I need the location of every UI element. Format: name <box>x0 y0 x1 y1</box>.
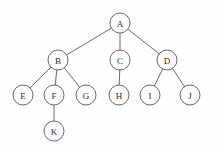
tree-node-k[interactable]: K <box>44 121 64 141</box>
tree-node-e[interactable]: E <box>13 85 33 105</box>
node-label-e: E <box>20 91 26 101</box>
node-label-i: I <box>149 91 152 101</box>
tree-edge-b-f <box>55 70 57 85</box>
tree-node-j[interactable]: J <box>180 85 200 105</box>
tree-node-g[interactable]: G <box>76 85 96 105</box>
tree-node-c[interactable]: C <box>110 50 130 70</box>
node-label-c: C <box>117 56 123 66</box>
tree-node-f[interactable]: F <box>44 85 64 105</box>
tree-node-h[interactable]: H <box>109 85 129 105</box>
node-label-k: K <box>51 127 58 137</box>
tree-edge-b-e <box>30 67 51 88</box>
tree-node-d[interactable]: D <box>157 50 177 70</box>
node-label-a: A <box>117 19 124 29</box>
node-label-f: F <box>51 91 56 101</box>
tree-node-a[interactable]: A <box>110 13 130 33</box>
tree-node-b[interactable]: B <box>48 50 68 70</box>
tree-diagram: ABCDEFGHIJK <box>0 0 218 153</box>
tree-node-i[interactable]: I <box>140 85 160 105</box>
edge-layer <box>30 28 184 121</box>
node-label-h: H <box>116 91 123 101</box>
tree-edge-b-g <box>64 68 80 87</box>
node-label-j: J <box>188 91 192 101</box>
node-label-b: B <box>55 56 61 66</box>
node-label-d: D <box>164 56 171 66</box>
tree-diagram-canvas: ABCDEFGHIJK <box>0 0 218 153</box>
tree-edge-a-b <box>67 28 112 55</box>
node-label-g: G <box>83 91 90 101</box>
tree-edge-d-j <box>172 68 184 86</box>
tree-edge-d-i <box>154 69 162 86</box>
tree-edge-a-d <box>128 29 159 54</box>
